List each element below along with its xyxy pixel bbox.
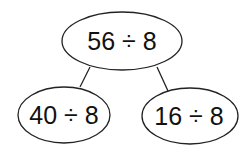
- connector-left: [80, 67, 90, 87]
- root-node: 56 ÷ 8: [62, 12, 182, 70]
- root-node-label: 56 ÷ 8: [87, 27, 156, 55]
- right-child-node: 16 ÷ 8: [142, 88, 238, 144]
- number-bond-diagram: 56 ÷ 8 40 ÷ 8 16 ÷ 8: [0, 0, 251, 153]
- connector-right: [157, 67, 168, 91]
- left-child-label: 40 ÷ 8: [29, 101, 98, 129]
- left-child-node: 40 ÷ 8: [18, 87, 110, 143]
- right-child-label: 16 ÷ 8: [154, 102, 223, 130]
